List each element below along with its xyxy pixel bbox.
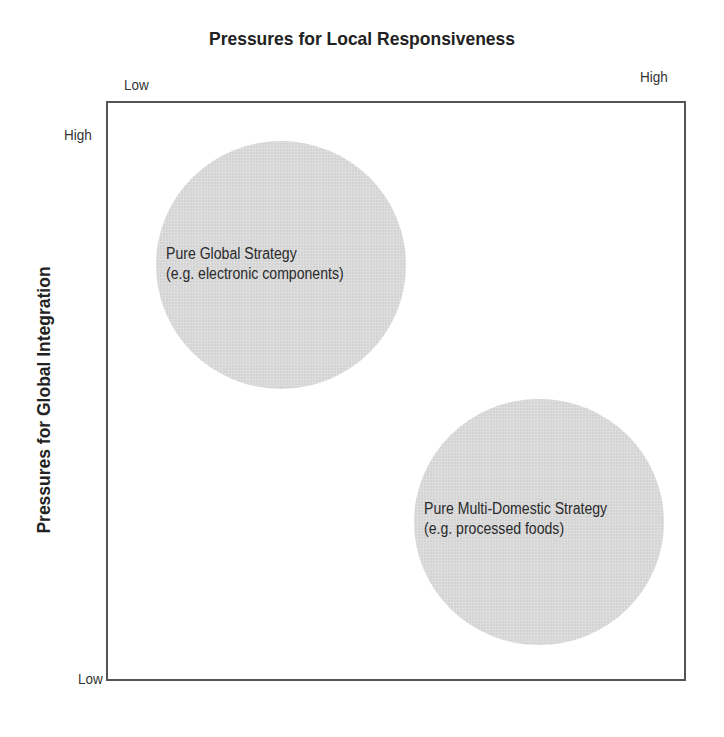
region-label-line2: (e.g. processed foods) — [424, 519, 607, 539]
y-axis-low-label: Low — [78, 670, 103, 687]
region-label-line1: Pure Global Strategy — [166, 244, 344, 264]
y-axis-label-text: Pressures for Global Integration — [33, 266, 55, 533]
diagram-title: Pressures for Local Responsiveness — [29, 28, 695, 50]
y-axis-high-label: High — [64, 126, 92, 143]
region-pure-multi-domestic-strategy-label: Pure Multi-Domestic Strategy (e.g. proce… — [424, 499, 607, 539]
x-axis-high-label: High — [640, 68, 668, 85]
region-label-line2: (e.g. electronic components) — [166, 264, 344, 284]
x-axis-low-label: Low — [124, 76, 149, 93]
region-label-line1: Pure Multi-Domestic Strategy — [424, 499, 607, 519]
region-pure-global-strategy-label: Pure Global Strategy (e.g. electronic co… — [166, 244, 344, 284]
